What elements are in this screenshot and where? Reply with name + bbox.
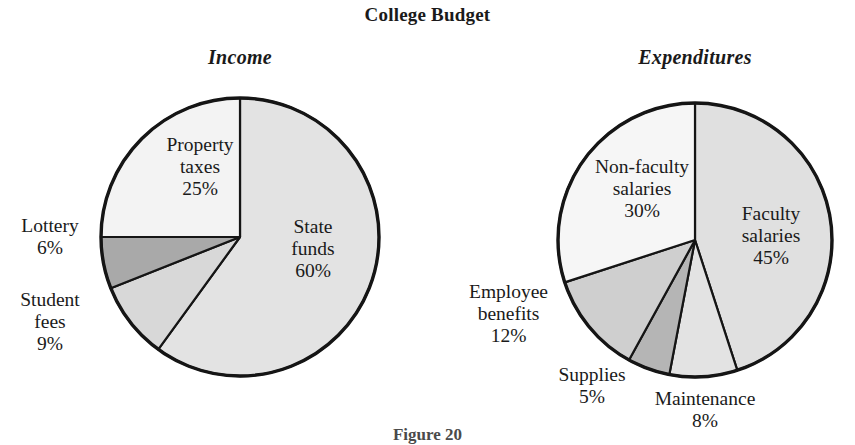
label-property-taxes: Property taxes 25%: [140, 134, 260, 200]
label-maintenance-line1: Maintenance: [640, 388, 770, 410]
college-budget-figure: College Budget Income Expenditures: [0, 0, 855, 445]
label-supplies-line1: Supplies: [542, 364, 642, 386]
label-faculty-salaries-line1: Faculty: [716, 203, 826, 225]
label-state-funds-line1: State: [258, 216, 368, 238]
figure-caption: Figure 20: [0, 425, 855, 445]
label-supplies: Supplies 5%: [542, 364, 642, 408]
label-student-fees-line2: fees: [0, 311, 100, 333]
label-lottery-value: 6%: [2, 237, 98, 259]
label-property-taxes-value: 25%: [140, 178, 260, 200]
label-lottery-line1: Lottery: [2, 215, 98, 237]
label-property-taxes-line2: taxes: [140, 156, 260, 178]
label-non-faculty-salaries-line1: Non-faculty: [572, 156, 712, 178]
label-state-funds-line2: funds: [258, 238, 368, 260]
label-faculty-salaries-line2: salaries: [716, 225, 826, 247]
label-student-fees: Student fees 9%: [0, 289, 100, 355]
label-non-faculty-salaries-value: 30%: [572, 200, 712, 222]
label-faculty-salaries: Faculty salaries 45%: [716, 203, 826, 269]
label-faculty-salaries-value: 45%: [716, 247, 826, 269]
label-non-faculty-salaries-line2: salaries: [572, 178, 712, 200]
label-property-taxes-line1: Property: [140, 134, 260, 156]
label-employee-benefits: Employee benefits 12%: [446, 281, 571, 347]
label-student-fees-value: 9%: [0, 333, 100, 355]
label-employee-benefits-line1: Employee: [446, 281, 571, 303]
label-state-funds-value: 60%: [258, 260, 368, 282]
label-student-fees-line1: Student: [0, 289, 100, 311]
label-non-faculty-salaries: Non-faculty salaries 30%: [572, 156, 712, 222]
label-lottery: Lottery 6%: [2, 215, 98, 259]
label-employee-benefits-value: 12%: [446, 325, 571, 347]
label-supplies-value: 5%: [542, 386, 642, 408]
label-employee-benefits-line2: benefits: [446, 303, 571, 325]
label-state-funds: State funds 60%: [258, 216, 368, 282]
